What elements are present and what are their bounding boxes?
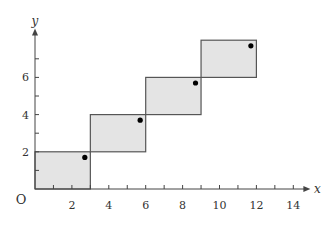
point-3 — [193, 80, 198, 85]
x-tick-label: 6 — [142, 199, 149, 212]
y-tick-label: 2 — [22, 146, 29, 159]
bar-1 — [35, 152, 90, 189]
y-axis-arrow-icon — [32, 29, 38, 36]
x-tick-label: 12 — [249, 199, 263, 212]
point-1 — [82, 155, 87, 160]
x-axis-label: x — [314, 182, 321, 196]
x-tick-label: 8 — [179, 199, 186, 212]
x-tick-label: 14 — [286, 199, 300, 212]
point-4 — [248, 43, 253, 48]
x-tick-label: 10 — [213, 199, 227, 212]
y-axis-label: y — [31, 14, 39, 28]
point-2 — [138, 118, 143, 123]
y-tick-label: 6 — [22, 71, 29, 84]
bar-rectangles — [35, 40, 256, 189]
bar-4 — [201, 40, 256, 77]
bar-2 — [90, 115, 145, 152]
origin-label: O — [16, 192, 27, 207]
x-axis-arrow-icon — [303, 186, 310, 192]
x-tick-label: 2 — [68, 199, 75, 212]
y-tick-label: 4 — [22, 109, 29, 122]
x-tick-label: 4 — [105, 199, 112, 212]
bar-3 — [146, 77, 201, 114]
step-chart: 2468101214246Oxy — [0, 0, 329, 226]
